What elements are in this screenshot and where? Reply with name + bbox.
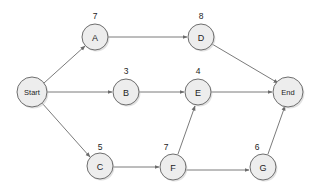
node-label-a: A: [92, 33, 98, 43]
edge-d-end: [212, 44, 278, 83]
edge-f-e: [178, 106, 195, 154]
node-label-start: Start: [24, 88, 41, 97]
node-label-c: C: [97, 162, 104, 172]
node-d[interactable]: D8: [188, 11, 215, 52]
edge-start-a: [44, 46, 85, 83]
node-label-d: D: [198, 33, 205, 43]
network-diagram-canvas: StartA7D8B3E4EndC5F7G6: [0, 0, 320, 191]
node-duration-a: 7: [93, 11, 98, 21]
node-duration-c: 5: [98, 142, 103, 152]
node-e[interactable]: E4: [185, 66, 212, 107]
node-g[interactable]: G6: [250, 142, 277, 182]
node-c[interactable]: C5: [87, 142, 114, 181]
node-duration-f: 7: [164, 142, 169, 152]
node-label-end: End: [281, 88, 294, 97]
edge-g-end: [268, 106, 285, 154]
node-duration-g: 6: [255, 142, 260, 152]
node-start[interactable]: Start: [17, 77, 48, 109]
node-b[interactable]: B3: [113, 66, 140, 107]
node-end[interactable]: End: [273, 77, 304, 109]
node-label-e: E: [195, 88, 201, 98]
node-label-f: F: [170, 163, 176, 173]
node-duration-b: 3: [124, 66, 129, 76]
node-f[interactable]: F7: [160, 142, 187, 182]
node-duration-e: 4: [196, 66, 201, 76]
node-label-g: G: [259, 163, 266, 173]
node-duration-d: 8: [199, 11, 204, 21]
node-a[interactable]: A7: [82, 11, 109, 52]
edge-start-c: [42, 103, 90, 157]
node-label-b: B: [123, 88, 129, 98]
network-diagram-svg: StartA7D8B3E4EndC5F7G6: [0, 0, 320, 191]
